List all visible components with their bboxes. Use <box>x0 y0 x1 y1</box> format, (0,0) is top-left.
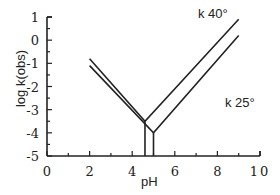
y-tick-label: 1 <box>31 10 39 25</box>
y-axis-label: log k(obs) <box>13 50 28 107</box>
x-tick-label: 6 <box>171 164 179 179</box>
series-line-k40 <box>90 19 239 121</box>
x-tick-label: 2 <box>85 164 93 179</box>
series-lines <box>90 19 239 156</box>
x-axis-label: pH <box>141 174 158 189</box>
x-tick-label: 4 <box>128 164 136 179</box>
y-tick-label: -5 <box>26 149 39 164</box>
y-tick-label: -2 <box>26 80 39 95</box>
y-tick-label: -4 <box>26 126 39 141</box>
y-tick-label: 0 <box>31 33 39 48</box>
ph-rate-chart: 10-1-2-3-4-50246810 pHlog k(obs)k 40°k 2… <box>0 0 280 195</box>
x-tick-label: 8 <box>213 164 221 179</box>
y-tick-label: -1 <box>26 56 39 71</box>
series-label-k25: k 25° <box>225 95 255 110</box>
series-label-k40: k 40° <box>198 6 228 21</box>
y-tick-label: -3 <box>26 103 39 118</box>
x-tick-label: 0 <box>43 164 51 179</box>
x-tick-label: 10 <box>250 164 271 179</box>
